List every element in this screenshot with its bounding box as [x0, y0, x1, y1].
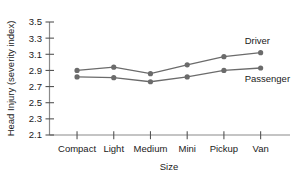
data-point-marker: [185, 74, 190, 79]
x-category-label: Pickup: [210, 143, 239, 154]
data-point-marker: [111, 65, 116, 70]
data-point-marker: [111, 75, 116, 80]
series-line: [77, 53, 261, 74]
series-line: [77, 68, 261, 82]
y-tick-label: 3.5: [29, 16, 42, 27]
x-category-label: Mini: [178, 143, 195, 154]
x-axis-category-labels: CompactLightMediumMiniPickupVan: [58, 143, 269, 154]
data-point-marker: [74, 68, 79, 73]
data-point-marker: [221, 54, 226, 59]
y-tick-label: 2.5: [29, 97, 42, 108]
series-driver: [74, 50, 263, 76]
data-point-marker: [258, 65, 263, 70]
x-category-label: Light: [103, 143, 124, 154]
y-tick-label: 2.7: [29, 81, 42, 92]
chart-canvas: 2.1 2.3 2.5 2.7 2.9 3.1 3.3 3.5 CompactL…: [0, 0, 298, 177]
series-annotations: DriverPassenger: [245, 35, 290, 84]
data-point-marker: [148, 71, 153, 76]
series-label-driver: Driver: [245, 35, 270, 46]
x-category-label: Compact: [58, 143, 96, 154]
data-point-marker: [221, 68, 226, 73]
y-tick-label: 3.1: [29, 49, 42, 60]
data-point-marker: [258, 50, 263, 55]
y-axis-title: Head Injury (severity index): [5, 21, 16, 137]
y-tick-label: 3.3: [29, 33, 42, 44]
series-label-passenger: Passenger: [245, 73, 290, 84]
y-tick-label: 2.9: [29, 65, 42, 76]
data-point-marker: [185, 62, 190, 67]
y-axis-tick-labels: 2.1 2.3 2.5 2.7 2.9 3.1 3.3 3.5: [29, 16, 42, 140]
x-category-label: Medium: [134, 143, 168, 154]
data-point-marker: [148, 79, 153, 84]
y-tick-label: 2.3: [29, 113, 42, 124]
data-series-layer: [74, 50, 263, 84]
data-point-marker: [74, 74, 79, 79]
y-tick-label: 2.1: [29, 129, 42, 140]
x-category-label: Van: [253, 143, 269, 154]
x-axis-title: Size: [160, 161, 178, 172]
head-injury-line-chart: 2.1 2.3 2.5 2.7 2.9 3.1 3.3 3.5 CompactL…: [0, 0, 298, 177]
